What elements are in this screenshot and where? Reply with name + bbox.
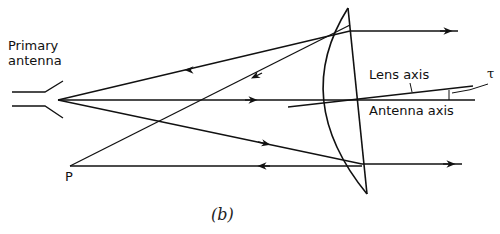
lens-axis-label: Lens axis xyxy=(369,67,429,82)
primary-antenna-horn-icon xyxy=(12,81,63,118)
primary-antenna-label-line2: antenna xyxy=(8,53,62,68)
ray-upper xyxy=(58,31,458,100)
primary-antenna-label: Primary antenna xyxy=(8,38,62,68)
primary-antenna-label-line1: Primary xyxy=(8,38,62,53)
figure-caption: (b) xyxy=(211,205,234,224)
point-p-label: P xyxy=(65,169,73,184)
tau-label: τ xyxy=(487,66,494,81)
antenna-axis-label: Antenna axis xyxy=(369,103,454,118)
ray-p-diagonal xyxy=(70,25,350,166)
